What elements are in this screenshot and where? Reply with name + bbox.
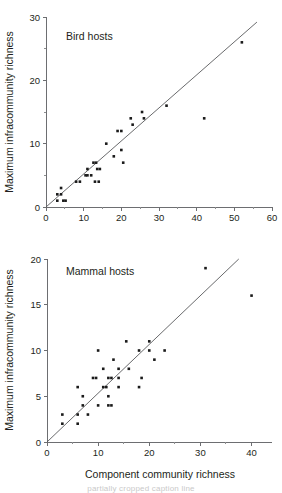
data-point	[76, 386, 79, 389]
data-point	[122, 161, 125, 164]
x-tick-label: 0	[43, 212, 48, 223]
data-point	[107, 395, 110, 398]
regression-line	[46, 22, 257, 207]
data-point	[148, 340, 151, 343]
data-point	[60, 187, 63, 190]
data-point	[92, 377, 95, 380]
data-point	[61, 422, 64, 425]
data-point	[153, 358, 156, 361]
y-tick-label: 30	[29, 12, 40, 23]
data-point	[60, 193, 63, 196]
y-tick-label: 5	[36, 391, 41, 402]
data-point	[113, 155, 116, 158]
data-point	[117, 386, 120, 389]
bird-hosts-plot: 01020304050600102030Bird hostsMaximum in…	[0, 0, 282, 232]
regression-line	[47, 259, 239, 442]
data-point	[102, 368, 105, 371]
data-point	[165, 104, 168, 107]
data-point	[138, 386, 141, 389]
data-point	[90, 174, 93, 177]
y-axis-title: Maximum infracommunity richness	[3, 31, 15, 193]
data-point	[128, 368, 131, 371]
mammal-hosts-plot: 01020304005101520Mammal hostsMaximum inf…	[0, 232, 282, 493]
data-point	[107, 377, 110, 380]
data-point	[138, 349, 141, 352]
data-point	[97, 180, 100, 183]
data-point	[117, 368, 120, 371]
x-tick-label: 30	[195, 447, 206, 458]
data-point	[62, 199, 65, 202]
data-point	[148, 349, 151, 352]
x-tick-label: 50	[229, 212, 240, 223]
data-point	[131, 123, 134, 126]
data-point	[76, 422, 79, 425]
x-tick-label: 60	[267, 212, 278, 223]
data-point	[86, 168, 89, 171]
panel-title: Mammal hosts	[66, 265, 134, 277]
y-tick-label: 10	[30, 345, 41, 356]
data-point	[56, 193, 59, 196]
data-point	[140, 377, 143, 380]
data-point	[141, 111, 144, 114]
panel-title: Bird hosts	[66, 30, 113, 42]
data-point	[117, 377, 120, 380]
y-tick-label: 10	[29, 138, 40, 149]
x-tick-label: 0	[44, 447, 49, 458]
data-point	[96, 168, 99, 171]
x-tick-label: 40	[246, 447, 257, 458]
y-tick-label: 15	[30, 299, 41, 310]
data-point	[95, 377, 98, 380]
data-point	[125, 340, 128, 343]
data-point	[92, 161, 95, 164]
x-axis-title: Component community richness	[85, 468, 235, 480]
data-point	[203, 117, 206, 120]
data-point	[86, 174, 89, 177]
data-point	[116, 130, 119, 133]
data-point	[120, 130, 123, 133]
data-point	[120, 149, 123, 152]
x-tick-label: 20	[116, 212, 127, 223]
y-axis-title: Maximum infracommunity richness	[3, 269, 15, 431]
data-point	[110, 377, 113, 380]
y-tick-label: 20	[30, 254, 41, 265]
data-point	[241, 41, 244, 44]
data-point	[107, 404, 110, 407]
data-point	[95, 161, 98, 164]
data-point	[105, 142, 108, 145]
data-point	[79, 180, 82, 183]
cropped-caption-text: partially cropped caption line	[0, 484, 282, 493]
data-point	[94, 180, 97, 183]
y-tick-label: 0	[36, 437, 41, 448]
x-tick-label: 20	[144, 447, 155, 458]
data-point	[163, 349, 166, 352]
data-point	[75, 180, 78, 183]
x-tick-label: 10	[93, 447, 104, 458]
data-point	[87, 413, 90, 416]
data-point	[97, 349, 100, 352]
data-point	[250, 294, 253, 297]
data-point	[129, 117, 132, 120]
data-point	[97, 404, 100, 407]
data-point	[61, 413, 64, 416]
y-tick-label: 0	[35, 202, 40, 213]
data-point	[105, 386, 108, 389]
data-point	[102, 386, 105, 389]
panel-mammal-hosts: 01020304005101520Mammal hostsMaximum inf…	[0, 232, 282, 493]
data-point	[110, 404, 113, 407]
data-point	[112, 358, 115, 361]
data-point	[64, 199, 67, 202]
y-tick-label: 20	[29, 75, 40, 86]
figure-two-panel-scatter: 01020304050600102030Bird hostsMaximum in…	[0, 0, 282, 493]
x-tick-label: 30	[154, 212, 165, 223]
data-point	[143, 117, 146, 120]
data-point	[81, 404, 84, 407]
x-tick-label: 10	[78, 212, 89, 223]
data-point	[204, 267, 207, 270]
data-point	[99, 168, 102, 171]
panel-bird-hosts: 01020304050600102030Bird hostsMaximum in…	[0, 0, 282, 232]
data-point	[76, 413, 79, 416]
data-point	[56, 199, 59, 202]
data-point	[81, 395, 84, 398]
x-tick-label: 40	[191, 212, 202, 223]
